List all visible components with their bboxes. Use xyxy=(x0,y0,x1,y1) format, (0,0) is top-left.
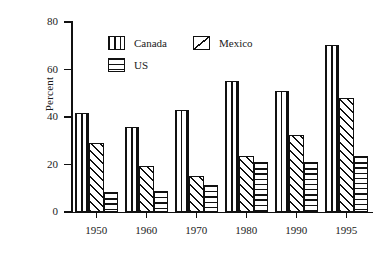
mexico-swatch-icon xyxy=(193,36,210,50)
x-tick-mark xyxy=(196,212,197,218)
legend-item-mexico: Mexico xyxy=(193,36,253,50)
bar-mexico-1995 xyxy=(339,98,354,212)
bar-mexico-1970 xyxy=(189,176,204,212)
legend-row-1: Canada Mexico xyxy=(108,32,253,54)
us-swatch-icon xyxy=(108,58,125,72)
legend-label-us: US xyxy=(134,59,148,71)
x-tick-mark xyxy=(96,212,97,218)
bar-mexico-1980 xyxy=(239,156,254,212)
x-tick-mark xyxy=(296,212,297,218)
bar-canada-1950 xyxy=(75,113,90,212)
legend-label-mexico: Mexico xyxy=(219,37,253,49)
y-tick-mark xyxy=(64,69,72,70)
bar-canada-1960 xyxy=(125,127,140,213)
bar-us-1980 xyxy=(254,162,269,212)
chart-legend: Canada Mexico US xyxy=(108,32,253,76)
x-tick-mark xyxy=(346,212,347,218)
y-tick-label: 0 xyxy=(18,206,58,217)
legend-row-2: US xyxy=(108,54,253,76)
y-tick-mark xyxy=(64,164,72,165)
bar-mexico-1990 xyxy=(289,135,304,212)
bar-chart: Percent 020406080 1950196019701980199019… xyxy=(0,0,390,255)
y-tick-label: 40 xyxy=(18,111,58,122)
y-tick-label: 60 xyxy=(18,64,58,75)
y-tick-mark xyxy=(64,116,72,117)
y-tick-label: 20 xyxy=(18,159,58,170)
legend-item-us: US xyxy=(108,58,148,72)
bar-us-1960 xyxy=(154,191,169,212)
bar-mexico-1950 xyxy=(89,143,104,212)
bar-us-1950 xyxy=(104,192,119,212)
x-tick-mark xyxy=(146,212,147,218)
bar-us-1970 xyxy=(204,185,219,212)
legend-label-canada: Canada xyxy=(134,37,167,49)
bar-canada-1970 xyxy=(175,110,190,212)
y-tick-mark xyxy=(64,21,72,22)
canada-swatch-icon xyxy=(108,36,125,50)
bar-us-1990 xyxy=(304,162,319,212)
x-tick-mark xyxy=(246,212,247,218)
bar-mexico-1960 xyxy=(139,166,154,212)
x-tick-label: 1995 xyxy=(316,224,376,236)
bar-canada-1990 xyxy=(275,91,290,212)
y-tick-label: 80 xyxy=(18,16,58,27)
legend-item-canada: Canada xyxy=(108,36,167,50)
bar-canada-1995 xyxy=(325,45,340,212)
bar-canada-1980 xyxy=(225,81,240,212)
bar-us-1995 xyxy=(354,156,369,212)
y-tick-mark xyxy=(64,211,72,212)
